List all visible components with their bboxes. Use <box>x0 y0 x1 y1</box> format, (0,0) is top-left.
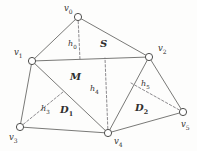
edge-v3-v4 <box>20 127 108 133</box>
height-h5 <box>131 83 183 112</box>
height-h0 <box>78 17 80 60</box>
vertex-node-v2 <box>145 53 152 60</box>
height-lines-group <box>20 17 183 133</box>
edge-v0-v1 <box>32 17 78 61</box>
edges-group <box>20 17 183 133</box>
height-h4 <box>105 58 108 133</box>
vertex-node-v5 <box>179 108 186 115</box>
graph-figure: v0v1v2v3v4v5h0h3h4h5SMD1D2 <box>0 0 197 151</box>
edge-v2-v4 <box>108 57 149 133</box>
vertex-node-v1 <box>28 57 35 64</box>
height-h3 <box>20 92 63 127</box>
edge-v1-v4 <box>32 61 108 133</box>
edge-v0-v2 <box>78 17 149 57</box>
vertex-node-v4 <box>104 129 111 136</box>
graph-canvas <box>0 0 197 151</box>
vertex-node-v3 <box>16 123 23 130</box>
edge-v1-v2 <box>32 57 149 61</box>
edge-v4-v5 <box>108 112 183 133</box>
edge-v1-v3 <box>20 61 32 127</box>
vertex-node-v0 <box>74 13 81 20</box>
edge-v2-v5 <box>149 57 183 112</box>
